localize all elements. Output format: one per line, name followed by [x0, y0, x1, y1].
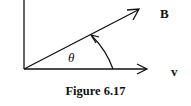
vector-v-label: v — [171, 64, 178, 79]
angle-label: θ — [68, 50, 75, 65]
vector-b-arrow — [24, 9, 139, 69]
angle-arc — [91, 35, 113, 69]
vector-b-label: B — [160, 6, 169, 21]
vector-v-arrow — [24, 64, 147, 74]
figure-caption: Figure 6.17 — [0, 84, 191, 99]
